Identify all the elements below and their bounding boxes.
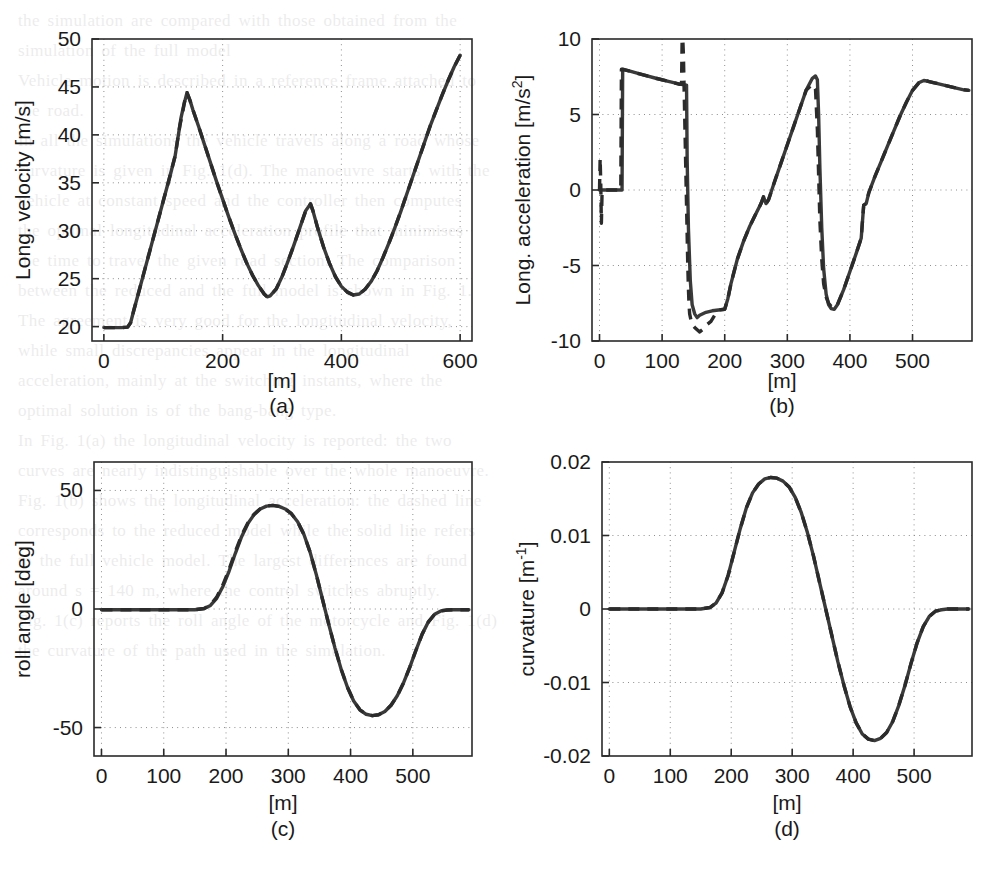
- curves: [609, 477, 969, 740]
- series-solid-0: [600, 69, 969, 317]
- ticks: 0100200300400500-10-50510: [551, 27, 930, 372]
- panel-letter: (b): [769, 394, 795, 417]
- gridlines: [92, 39, 472, 341]
- x-tick-label: 200: [205, 349, 240, 372]
- y-tick-label: 0.02: [550, 450, 591, 473]
- x-tick-label: 500: [895, 349, 930, 372]
- y-tick-label: 5: [569, 103, 581, 126]
- x-tick-label: 100: [653, 764, 688, 787]
- figure-four-subplots: 020040060020253035404550Long. velocity […: [0, 0, 1000, 874]
- x-tick-label: 0: [594, 349, 606, 372]
- panel-letter: (c): [271, 817, 296, 840]
- y-tick-label: 50: [60, 478, 83, 501]
- y-tick-label: 0.01: [550, 524, 591, 547]
- x-axis-title: [m]: [267, 369, 296, 392]
- x-tick-label: 600: [443, 349, 478, 372]
- y-tick-label: 10: [558, 27, 581, 50]
- y-axis-title: Long. velocity [m/s]: [11, 100, 34, 280]
- curves: [104, 55, 460, 327]
- x-tick-label: 500: [897, 764, 932, 787]
- y-tick-label: 30: [58, 219, 81, 242]
- gridlines: [592, 39, 972, 341]
- x-tick-label: 200: [208, 764, 243, 787]
- x-tick-label: 0: [98, 349, 110, 372]
- x-tick-label: 400: [836, 764, 871, 787]
- y-tick-label: 35: [58, 171, 81, 194]
- y-tick-label: 0: [579, 597, 591, 620]
- series-solid-0: [609, 477, 969, 740]
- y-tick-label: -10: [551, 329, 581, 352]
- x-tick-label: 500: [395, 764, 430, 787]
- y-tick-label: 40: [58, 123, 81, 146]
- axes-frame: [92, 39, 472, 341]
- series-dashed-1: [600, 39, 969, 332]
- x-tick-label: 400: [832, 349, 867, 372]
- y-tick-label: -5: [562, 254, 581, 277]
- x-tick-label: 100: [645, 349, 680, 372]
- x-tick-label: 200: [707, 349, 742, 372]
- y-axis-title: roll angle [deg]: [11, 540, 34, 678]
- y-tick-label: 0: [71, 597, 83, 620]
- subplot-b: 0100200300400500-10-50510Long. accelerat…: [500, 6, 1000, 436]
- y-tick-label: 20: [58, 315, 81, 338]
- y-tick-label: 25: [58, 267, 81, 290]
- x-tick-label: 0: [603, 764, 615, 787]
- subplot-a: 020040060020253035404550Long. velocity […: [0, 6, 500, 436]
- x-tick-label: 400: [324, 349, 359, 372]
- x-tick-label: 0: [96, 764, 108, 787]
- y-tick-label: -0.01: [543, 671, 591, 694]
- subplot-b-canvas: 0100200300400500-10-50510Long. accelerat…: [500, 6, 1000, 436]
- y-tick-label: -50: [53, 716, 83, 739]
- panel-letter: (d): [774, 817, 800, 840]
- y-tick-label: 0: [569, 178, 581, 201]
- x-axis-title: [m]: [268, 791, 297, 814]
- x-tick-label: 400: [333, 764, 368, 787]
- x-axis-title: [m]: [767, 369, 796, 392]
- subplot-a-canvas: 020040060020253035404550Long. velocity […: [0, 6, 500, 436]
- curves: [101, 505, 468, 715]
- x-axis-title: [m]: [772, 791, 801, 814]
- subplot-c-canvas: 0100200300400500-50050roll angle [deg][m…: [0, 436, 500, 874]
- x-tick-label: 100: [146, 764, 181, 787]
- curves: [600, 39, 969, 332]
- subplot-c: 0100200300400500-50050roll angle [deg][m…: [0, 436, 500, 874]
- subplot-d: 0100200300400500-0.02-0.0100.010.02curva…: [500, 436, 1000, 874]
- y-tick-label: 50: [58, 27, 81, 50]
- y-tick-label: 45: [58, 75, 81, 98]
- x-tick-label: 300: [775, 764, 810, 787]
- subplot-d-canvas: 0100200300400500-0.02-0.0100.010.02curva…: [500, 436, 1000, 874]
- x-tick-label: 200: [714, 764, 749, 787]
- x-tick-label: 300: [271, 764, 306, 787]
- ticks: 0100200300400500-50050: [53, 478, 431, 787]
- series-solid-0: [104, 55, 460, 327]
- y-axis-title: curvature [m-1]: [513, 542, 538, 677]
- series-solid-0: [101, 505, 468, 715]
- y-axis-title: Long. acceleration [m/s2]: [509, 75, 534, 306]
- panel-letter: (a): [269, 394, 295, 417]
- ticks: 020040060020253035404550: [58, 27, 478, 372]
- y-tick-label: -0.02: [543, 744, 591, 767]
